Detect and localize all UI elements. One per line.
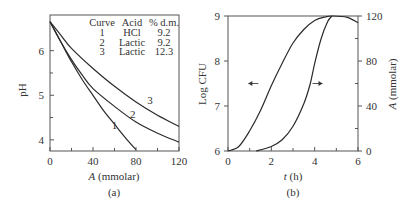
log-cfu-curve [228,16,358,151]
x-tick-label: 40 [88,155,100,167]
x-tick-label: 4 [312,155,318,167]
y-tick-label: 5 [39,89,45,101]
x-tick-label: 120 [171,155,188,167]
x-tick-label: 0 [47,155,53,167]
y2-unit: (mmolar) [386,58,399,100]
x-unit: (h) [289,170,302,183]
x-var: A [87,170,95,182]
x-var: t [284,170,288,182]
panel-b-frame [228,16,358,151]
panel-a-chart: 04080120456 123 CurveAcid% d.m.1HCl9.22L… [16,15,188,199]
legend-cell: 3 [99,46,104,57]
panel-b-y-axis-label: Log CFU [196,63,208,105]
panel-a-legend-table: CurveAcid% d.m.1HCl9.22Lactic9.23Lactic1… [89,17,179,57]
y-tick-label: 8 [215,55,221,67]
panel-b-curves [228,16,358,151]
panel-a-caption: (a) [108,186,121,199]
y-tick-label: 4 [39,134,45,146]
curve-label: 2 [130,108,136,120]
curve-label: 1 [112,119,118,131]
x-tick-label: 0 [225,155,231,167]
arrow-head-icon [248,81,252,86]
y2-tick-label: 0 [366,145,372,157]
panel-a-y-axis-label: pH [16,83,28,97]
curve-label: 3 [147,94,153,106]
y2-tick-label: 80 [366,55,378,67]
y-tick-label: 7 [215,100,221,112]
x-tick-label: 6 [355,155,361,167]
y-tick-label: 6 [39,45,45,57]
y2-var: A [386,103,398,111]
y2-tick-label: 120 [366,10,383,22]
panel-b-chart: 0246678904080120 Log CFU A (mmolar) t (h… [196,10,399,199]
x-tick-label: 80 [131,155,143,167]
y2-tick-label: 40 [366,100,378,112]
figure: 04080120456 123 CurveAcid% d.m.1HCl9.22L… [0,0,415,213]
panel-b-x-axis-label: t (h) [284,170,303,183]
panel-b-caption: (b) [287,186,300,199]
x-unit: (mmolar) [98,170,140,183]
legend-cell: 12.3 [155,46,173,57]
y-tick-label: 6 [215,145,221,157]
x-tick-label: 2 [269,155,275,167]
panel-a-x-axis-label: A (mmolar) [87,170,139,183]
panel-b-y2-axis-label: A (mmolar) [386,58,399,110]
y-tick-label: 9 [215,10,221,22]
legend-cell: Lactic [119,46,146,57]
arrow-head-icon [319,81,323,86]
